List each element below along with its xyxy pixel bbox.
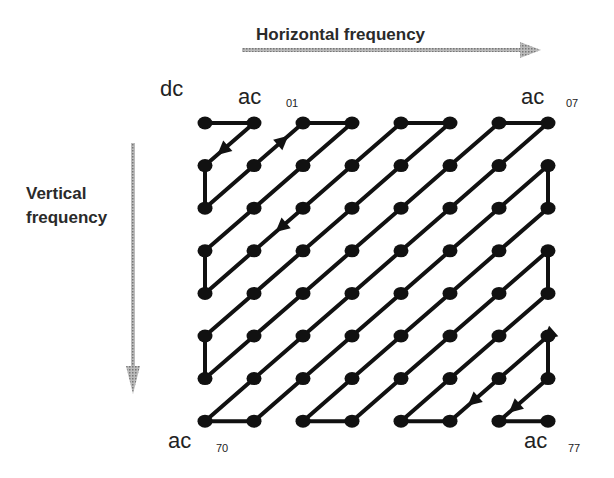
coefficient-node: [541, 117, 556, 130]
coefficient-node: [541, 415, 556, 428]
coefficient-node: [443, 372, 458, 385]
coefficient-node: [198, 117, 213, 130]
coefficient-node: [541, 330, 556, 343]
coefficient-node: [247, 372, 262, 385]
coefficient-node: [492, 330, 507, 343]
coefficient-node: [296, 287, 311, 300]
coefficient-node: [541, 287, 556, 300]
coefficient-node: [247, 244, 262, 257]
coefficient-node: [198, 372, 213, 385]
coefficient-node: [296, 372, 311, 385]
coefficient-node: [541, 202, 556, 215]
coefficient-node: [198, 287, 213, 300]
coefficient-node: [443, 159, 458, 172]
coefficient-node: [541, 159, 556, 172]
coefficient-node: [198, 415, 213, 428]
coefficient-node: [247, 287, 262, 300]
coefficient-node: [345, 159, 360, 172]
coefficient-node: [492, 244, 507, 257]
coefficient-node: [198, 159, 213, 172]
coefficient-node: [492, 117, 507, 130]
coefficient-node: [345, 117, 360, 130]
coefficient-node: [198, 202, 213, 215]
coefficient-node: [492, 287, 507, 300]
coefficient-node: [345, 372, 360, 385]
coefficient-node: [541, 372, 556, 385]
coefficient-node: [394, 330, 409, 343]
coefficient-node: [296, 244, 311, 257]
coefficient-node: [247, 159, 262, 172]
coefficient-node: [492, 202, 507, 215]
horizontal-axis-arrow: [242, 42, 541, 58]
coefficient-node: [394, 415, 409, 428]
coefficient-node: [345, 287, 360, 300]
coefficient-node: [247, 202, 262, 215]
coefficient-node: [345, 415, 360, 428]
coefficient-node: [394, 287, 409, 300]
coefficient-node: [394, 372, 409, 385]
coefficient-node: [247, 117, 262, 130]
coefficient-node: [345, 330, 360, 343]
coefficient-node: [296, 330, 311, 343]
coefficient-node: [443, 330, 458, 343]
coefficient-node: [394, 117, 409, 130]
coefficient-node: [345, 244, 360, 257]
coefficient-node: [394, 244, 409, 257]
coefficient-node: [443, 287, 458, 300]
coefficient-node: [443, 202, 458, 215]
coefficient-node: [492, 159, 507, 172]
coefficient-node: [296, 159, 311, 172]
coefficient-node: [247, 415, 262, 428]
coefficient-node: [296, 202, 311, 215]
coefficient-node: [394, 202, 409, 215]
coefficient-node: [541, 244, 556, 257]
coefficient-node: [198, 244, 213, 257]
coefficient-node: [443, 244, 458, 257]
coefficient-node: [443, 415, 458, 428]
coefficient-node: [492, 372, 507, 385]
coefficient-node: [492, 415, 507, 428]
coefficient-node: [296, 117, 311, 130]
coefficient-node: [345, 202, 360, 215]
coefficient-node: [443, 117, 458, 130]
vertical-axis-arrow: [126, 143, 140, 394]
coefficient-node: [247, 330, 262, 343]
zigzag-scan-diagram: [0, 0, 614, 478]
coefficient-node: [394, 159, 409, 172]
coefficient-node: [198, 330, 213, 343]
coefficient-node: [296, 415, 311, 428]
